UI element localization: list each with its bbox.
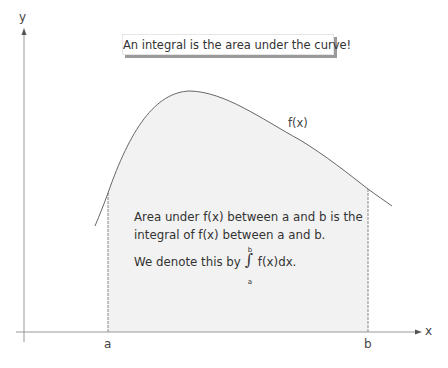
- description-line-3: We denote this by b ∫ a f(x)dx.: [134, 253, 374, 271]
- x-axis-label: x: [425, 324, 432, 338]
- plot-canvas: [0, 0, 448, 368]
- integral-notation: b ∫ a: [245, 253, 255, 271]
- integral-lower-bound: a: [248, 273, 252, 291]
- integral-sign-icon: ∫: [245, 251, 253, 269]
- description-line-3-suffix: f(x)dx.: [258, 253, 297, 271]
- description-line-2: integral of f(x) between a and b.: [134, 226, 374, 244]
- description-line-1: Area under f(x) between a and b is the: [134, 208, 374, 226]
- y-axis-arrow-icon: [22, 28, 27, 35]
- description-line-3-prefix: We denote this by: [134, 253, 241, 271]
- curve-label: f(x): [288, 116, 308, 130]
- bound-label-a: a: [104, 337, 111, 351]
- description-text: Area under f(x) between a and b is the i…: [134, 208, 374, 271]
- title-callout: An integral is the area under the curve!: [122, 34, 334, 55]
- bound-label-b: b: [364, 337, 372, 351]
- y-axis-label: y: [19, 10, 26, 24]
- x-axis-arrow-icon: [415, 330, 422, 335]
